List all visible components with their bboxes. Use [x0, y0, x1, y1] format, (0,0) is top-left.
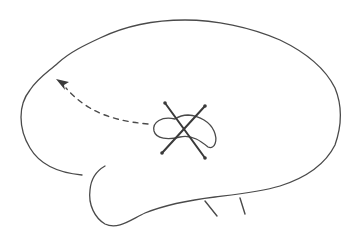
brainstem-tick-1 — [205, 201, 217, 216]
cross-end-dot — [163, 101, 167, 105]
cross-mark-stroke-2 — [162, 106, 205, 153]
brainstem-tick-2 — [240, 198, 245, 214]
cross-end-dot — [160, 151, 164, 155]
brain-sketch — [0, 0, 362, 244]
dashed-arrow-line — [66, 88, 148, 124]
cross-end-dot — [203, 156, 207, 160]
cross-end-dot — [203, 104, 207, 108]
